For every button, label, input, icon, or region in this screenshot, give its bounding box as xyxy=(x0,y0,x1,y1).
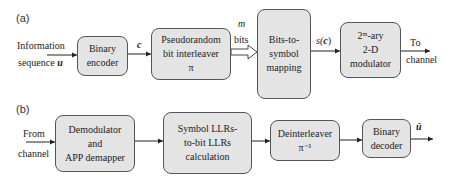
block-text: Deinterleaver xyxy=(278,127,332,141)
panel-b-label: (b) xyxy=(16,103,29,115)
panel-a-label: (a) xyxy=(16,12,29,24)
block-text: Binary xyxy=(89,42,116,56)
binary-decoder-block: Binary decoder xyxy=(362,119,411,158)
modulator-block: 2ᵐ-ary 2-D modulator xyxy=(340,22,401,78)
block-text: Bits-to- xyxy=(269,33,300,47)
block-text: mapping xyxy=(267,61,302,75)
pseudorandom-interleaver-block: Pseudorandom bit interleaver π xyxy=(151,28,231,80)
input-label-line1: From xyxy=(23,128,45,140)
pi-symbol: π xyxy=(188,61,193,75)
sequence-text: sequence xyxy=(18,57,55,68)
hollow-arrow xyxy=(231,45,257,59)
output-label-line1: To xyxy=(410,37,420,49)
bits-label: bits xyxy=(234,34,248,46)
block-text: Binary xyxy=(373,125,400,139)
block-text: and xyxy=(88,137,102,151)
block-text: decoder xyxy=(371,139,403,153)
block-text: Demodulator xyxy=(69,123,122,137)
deinterleaver-block: Deinterleaver π⁻¹ xyxy=(270,120,340,161)
u-symbol: u xyxy=(57,57,63,68)
block-text: APP demapper xyxy=(65,151,125,165)
block-text: modulator xyxy=(350,57,391,71)
block-text: Symbol LLRs- xyxy=(178,122,238,136)
c-label: c xyxy=(137,39,141,51)
block-text: 2-D xyxy=(363,43,379,57)
input-label-line2: channel xyxy=(18,148,49,160)
demodulator-app-demapper-block: Demodulator and APP demapper xyxy=(55,115,135,172)
m-label: m xyxy=(238,18,245,30)
pi-inverse-symbol: π⁻¹ xyxy=(298,141,311,155)
output-label-line2: channel xyxy=(406,54,437,66)
block-text: bit interleaver xyxy=(163,47,219,61)
block-text: calculation xyxy=(186,150,230,164)
block-text: symbol xyxy=(269,47,298,61)
llr-calculation-block: Symbol LLRs- to-bit LLRs calculation xyxy=(163,112,252,174)
s-of-c-label: s(c) xyxy=(316,35,331,47)
u-hat-label: û xyxy=(416,121,422,133)
binary-encoder-block: Binary encoder xyxy=(77,36,128,76)
block-text: to-bit LLRs xyxy=(184,136,231,150)
bits-to-symbol-mapping-block: Bits-to- symbol mapping xyxy=(257,9,311,99)
block-text: encoder xyxy=(87,56,119,70)
paren: ) xyxy=(328,35,331,46)
block-text: 2ᵐ-ary xyxy=(358,29,384,43)
block-text: Pseudorandom xyxy=(161,33,220,47)
input-label-line1: Information xyxy=(17,40,65,52)
input-label-line2: sequence u xyxy=(18,57,63,69)
